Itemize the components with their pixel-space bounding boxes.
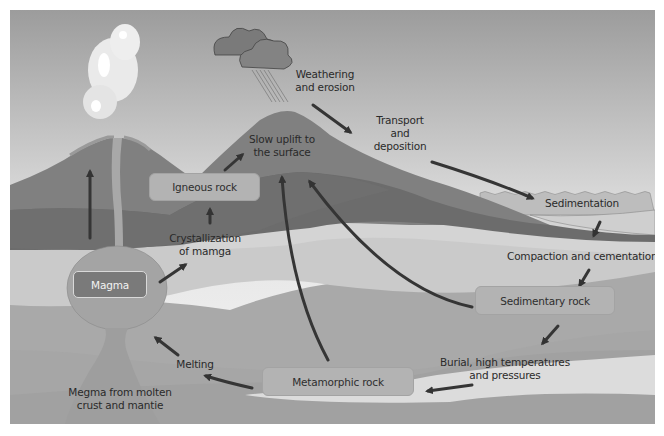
label-weathering: Weathering and erosion — [290, 68, 360, 94]
label-weathering-line1: Weathering — [290, 68, 360, 81]
label-weathering-line2: and erosion — [290, 81, 360, 94]
label-magma-source-line1: Megma from molten — [65, 386, 175, 399]
label-crystallization-line2: of mamga — [165, 245, 245, 258]
sedimentary-rock-box: Sedimentary rock — [475, 286, 615, 315]
label-magma-source: Megma from molten crust and mantie — [65, 386, 175, 412]
label-burial-line2: and pressures — [440, 369, 570, 382]
igneous-rock-box: Igneous rock — [149, 173, 260, 201]
metamorphic-rock-box: Metamorphic rock — [262, 367, 414, 396]
label-uplift-line2: the surface — [242, 146, 322, 159]
label-transport-line2: and — [370, 127, 430, 140]
label-transport: Transport and deposition — [370, 114, 430, 153]
label-burial-line1: Burial, high temperatures — [440, 356, 570, 369]
rock-cycle-diagram: Magma Igneous rock Sedimentary rock Meta… — [10, 10, 655, 424]
label-transport-line1: Transport — [370, 114, 430, 127]
label-uplift-line1: Slow uplift to — [242, 133, 322, 146]
label-sedimentation: Sedimentation — [537, 197, 627, 210]
label-transport-line3: deposition — [370, 140, 430, 153]
label-uplift: Slow uplift to the surface — [242, 133, 322, 159]
magma-box: Magma — [73, 271, 147, 298]
label-burial: Burial, high temperatures and pressures — [440, 356, 570, 382]
label-crystallization-line1: Crystallization — [165, 232, 245, 245]
label-crystallization: Crystallization of mamga — [165, 232, 245, 258]
label-magma-source-line2: crust and mantie — [65, 399, 175, 412]
label-compaction: Compaction and cementation — [507, 250, 655, 263]
label-melting: Melting — [173, 358, 217, 371]
